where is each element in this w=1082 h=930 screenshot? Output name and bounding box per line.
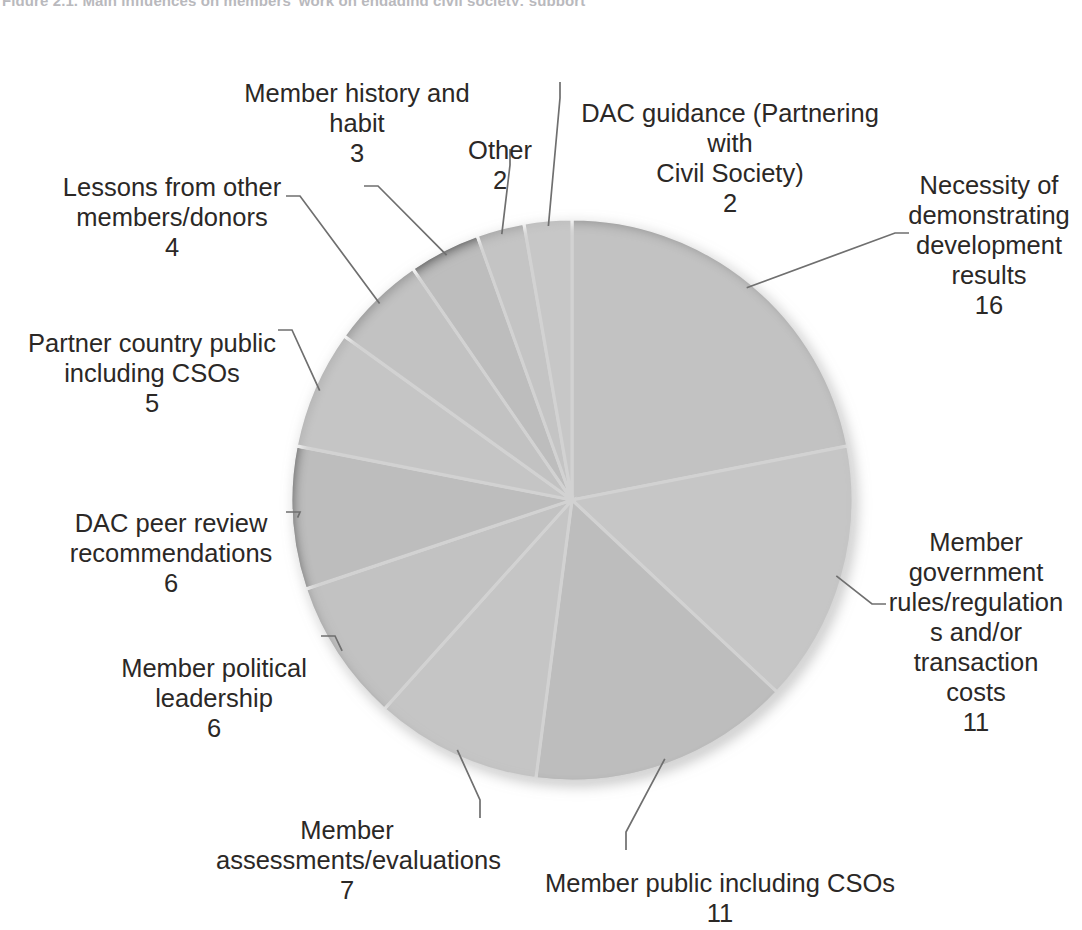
slice-label-partner-country: Partner country public including CSOs 5	[18, 298, 286, 448]
slice-label-dac-guidance: DAC guidance (Partnering with Civil Soci…	[556, 68, 904, 248]
slice-label-govrules: Member government rules/regulation s and…	[878, 497, 1074, 767]
slice-label-govrules-value: 11	[878, 707, 1074, 737]
slice-label-partner-country-value: 5	[18, 388, 286, 418]
slice-label-pubcsos: Member public including CSOs 11	[540, 838, 900, 930]
slice-label-results: Necessity of demonstrating development r…	[900, 140, 1078, 350]
slice-label-political-value: 6	[90, 713, 338, 743]
slice-label-dac-guidance-name: DAC guidance (Partnering with Civil Soci…	[581, 99, 879, 187]
slice-label-pubcsos-name: Member public including CSOs	[545, 869, 895, 897]
slice-label-partner-country-name: Partner country public including CSOs	[28, 329, 276, 387]
slice-label-results-value: 16	[900, 290, 1078, 320]
slice-label-other-name: Other	[468, 136, 532, 164]
slice-label-other: Other 2	[432, 105, 568, 225]
slice-label-assess: Member assessments/evaluations 7	[216, 785, 478, 930]
slice-label-lessons-value: 4	[48, 232, 296, 262]
pie-slices	[291, 219, 853, 781]
slice-label-assess-name: Member assessments/evaluations	[216, 816, 501, 874]
slice-label-results-name: Necessity of demonstrating development r…	[908, 171, 1070, 289]
slice-label-political: Member political leadership 6	[90, 623, 338, 773]
slice-label-other-value: 2	[432, 165, 568, 195]
slice-label-assess-value: 7	[216, 875, 478, 905]
slice-label-govrules-name: Member government rules/regulation s and…	[889, 528, 1063, 706]
leader-line	[286, 196, 380, 304]
slice-label-peer-review: DAC peer review recommendations 6	[42, 478, 300, 628]
slice-label-political-name: Member political leadership	[121, 654, 307, 712]
slice-label-dac-guidance-value: 2	[556, 188, 904, 218]
slice-label-peer-review-value: 6	[42, 568, 300, 598]
slice-label-peer-review-name: DAC peer review recommendations	[70, 509, 273, 567]
slice-label-pubcsos-value: 11	[540, 898, 900, 928]
chart-canvas: Figure 2.1. Main influences on members' …	[0, 0, 1082, 930]
